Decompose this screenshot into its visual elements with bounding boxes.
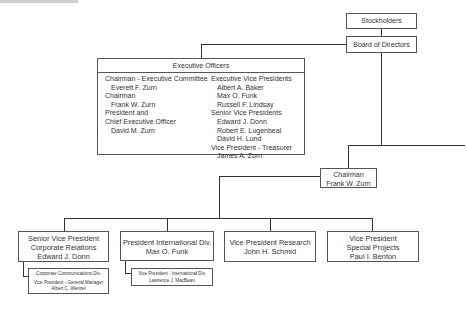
connector-line bbox=[23, 262, 24, 276]
exec-line: Max O. Funk bbox=[211, 92, 292, 101]
stockholders-label: Stockholders bbox=[361, 17, 401, 24]
sub-line: Lawrence J. MacBean bbox=[132, 278, 212, 285]
sub-box-international: Vice President - International Div. Lawr… bbox=[131, 268, 213, 286]
connector-line bbox=[219, 176, 320, 177]
exec-line: Senior Vice Presidents bbox=[211, 109, 292, 118]
division-box-special-projects: Vice President Special Projects Paul I. … bbox=[327, 231, 419, 262]
board-of-directors-box: Board of Directors bbox=[346, 36, 417, 53]
stockholders-box: Stockholders bbox=[346, 13, 417, 29]
division-line: Special Projects bbox=[328, 243, 418, 252]
connector-line bbox=[348, 145, 349, 168]
chairman-box: Chairman Frank W. Zurn bbox=[320, 168, 377, 188]
division-line: Paul I. Benton bbox=[328, 252, 418, 261]
board-label: Board of Directors bbox=[353, 41, 409, 48]
division-box-research: Vice President Research John H. Schmid bbox=[224, 231, 316, 262]
exec-right-column: Executive Vice Presidents Albert A. Bake… bbox=[211, 75, 292, 161]
connector-line bbox=[381, 53, 382, 145]
exec-line: Everett F. Zurn bbox=[105, 84, 208, 93]
connector-line bbox=[201, 44, 202, 58]
division-line: John H. Schmid bbox=[225, 247, 315, 256]
division-box-international: President International Div. Max O. Funk bbox=[120, 231, 214, 261]
exec-left-column: Chairman - Executive Committee Everett F… bbox=[105, 75, 208, 135]
exec-line: Albert A. Baker bbox=[211, 84, 292, 93]
sub-line: Vice President - International Div. bbox=[132, 271, 212, 278]
executive-officers-box: Executive Officers Chairman - Executive … bbox=[97, 58, 305, 155]
division-line: Vice President bbox=[328, 234, 418, 243]
division-line: President International Div. bbox=[121, 238, 213, 247]
executive-officers-title: Executive Officers bbox=[98, 59, 304, 73]
division-line: Edward J. Donn bbox=[19, 252, 108, 261]
exec-line: Edward J. Donn bbox=[211, 118, 292, 127]
connector-line bbox=[381, 29, 382, 36]
exec-line: James A. Zurn bbox=[211, 152, 292, 161]
exec-line: Russell F. Lindsay bbox=[211, 101, 292, 110]
sub-line: Corporate Communications Div. bbox=[29, 271, 108, 278]
connector-line bbox=[219, 176, 220, 218]
chairman-name: Frank W. Zurn bbox=[321, 179, 376, 188]
exec-line: Frank W. Zurn bbox=[105, 101, 208, 110]
chairman-title: Chairman bbox=[321, 170, 376, 179]
exec-line: Chief Executive Officer bbox=[105, 118, 208, 127]
connector-line bbox=[64, 218, 65, 231]
connector-line bbox=[64, 218, 373, 219]
exec-line: Chairman bbox=[105, 92, 208, 101]
connector-line bbox=[270, 218, 271, 231]
cropped-text-fragment bbox=[0, 0, 78, 3]
connector-line bbox=[201, 44, 346, 45]
sub-line: Albert C. Wenzel bbox=[29, 286, 108, 293]
sub-box-corporate-communications: Corporate Communications Div. Vice Presi… bbox=[28, 268, 109, 294]
connector-line bbox=[167, 218, 168, 231]
exec-line: David M. Zurn bbox=[105, 127, 208, 136]
exec-line: Robert E. Lugenbeal bbox=[211, 127, 292, 136]
connector-line bbox=[372, 218, 373, 231]
exec-line: Executive Vice Presidents bbox=[211, 75, 292, 84]
connector-line bbox=[348, 145, 465, 146]
exec-line: Chairman - Executive Committee bbox=[105, 75, 208, 84]
exec-line: Vice President - Treasurer bbox=[211, 144, 292, 153]
division-line: Senior Vice President bbox=[19, 234, 108, 243]
division-box-corporate-relations: Senior Vice President Corporate Relation… bbox=[18, 231, 109, 262]
division-line: Max O. Funk bbox=[121, 247, 213, 256]
division-line: Vice President Research bbox=[225, 238, 315, 247]
connector-line bbox=[125, 261, 126, 273]
exec-line: David H. Lund bbox=[211, 135, 292, 144]
division-line: Corporate Relations bbox=[19, 243, 108, 252]
exec-line: President and bbox=[105, 109, 208, 118]
